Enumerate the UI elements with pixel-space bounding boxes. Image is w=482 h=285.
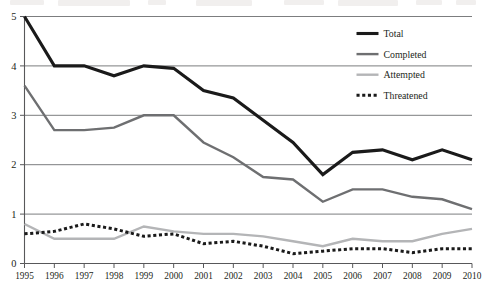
legend-item-threatened[interactable]: Threatened — [357, 90, 428, 101]
x-tick-label: 2008 — [403, 271, 422, 281]
series-line-completed — [25, 86, 473, 210]
y-axis-tick-labels: 012345 — [11, 11, 24, 269]
chart-canvas: 0123451995199619971998199920002001200220… — [0, 0, 482, 285]
legend-label: Completed — [384, 49, 427, 60]
x-tick-label: 1996 — [45, 271, 64, 281]
x-tick-label: 2005 — [314, 271, 333, 281]
legend: TotalCompletedAttemptedThreatened — [357, 28, 428, 101]
x-tick-label: 1995 — [15, 271, 34, 281]
x-tick-label: 2002 — [224, 271, 243, 281]
x-tick-label: 2007 — [373, 271, 392, 281]
y-tick-label: 1 — [11, 209, 16, 220]
legend-label: Threatened — [384, 90, 428, 101]
x-tick-label: 2000 — [164, 271, 183, 281]
x-tick-label: 2009 — [433, 271, 452, 281]
legend-item-total[interactable]: Total — [357, 28, 404, 39]
x-axis-tick-labels: 1995199619971998199920002001200220032004… — [15, 264, 481, 281]
y-tick-label: 5 — [11, 11, 16, 22]
x-tick-label: 1997 — [75, 271, 94, 281]
x-tick-label: 1998 — [105, 271, 124, 281]
y-tick-label: 0 — [11, 258, 16, 269]
legend-item-attempted[interactable]: Attempted — [357, 69, 425, 80]
x-tick-label: 2003 — [254, 271, 273, 281]
x-tick-label: 2010 — [463, 271, 482, 281]
y-tick-label: 4 — [11, 61, 17, 72]
legend-label: Total — [384, 28, 404, 39]
gridlines — [25, 17, 473, 215]
y-tick-label: 2 — [11, 159, 16, 170]
x-tick-label: 2006 — [343, 271, 362, 281]
legend-label: Attempted — [384, 69, 425, 80]
line-chart: 0123451995199619971998199920002001200220… — [0, 0, 482, 285]
legend-item-completed[interactable]: Completed — [357, 49, 427, 60]
series-line-attempted — [25, 224, 473, 246]
x-tick-label: 2004 — [284, 271, 303, 281]
x-tick-label: 2001 — [194, 271, 213, 281]
y-tick-label: 3 — [11, 110, 16, 121]
x-tick-label: 1999 — [135, 271, 154, 281]
